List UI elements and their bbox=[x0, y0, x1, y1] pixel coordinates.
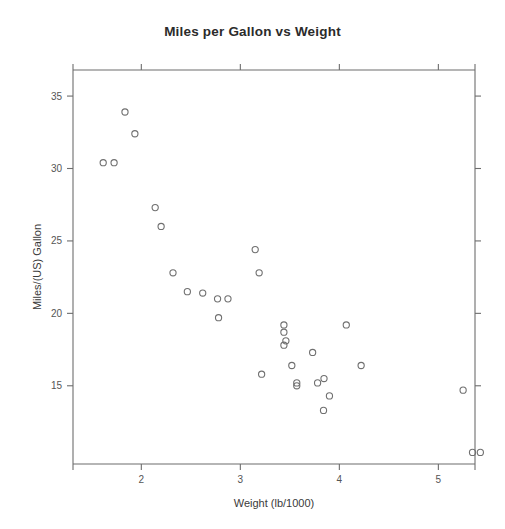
data-point bbox=[215, 315, 221, 321]
data-point bbox=[281, 329, 287, 335]
data-point bbox=[289, 362, 295, 368]
data-point bbox=[320, 407, 326, 413]
data-point bbox=[170, 270, 176, 276]
data-point bbox=[256, 270, 262, 276]
data-point bbox=[132, 131, 138, 137]
data-point bbox=[281, 322, 287, 328]
data-point bbox=[158, 223, 164, 229]
y-tick-label: 20 bbox=[51, 308, 63, 319]
scatter-plot-canvas: 2345 1520253035 Weight (lb/1000) Miles/(… bbox=[0, 0, 505, 529]
data-point bbox=[460, 387, 466, 393]
data-point bbox=[225, 296, 231, 302]
data-point bbox=[358, 362, 364, 368]
data-point bbox=[100, 160, 106, 166]
data-point bbox=[184, 289, 190, 295]
chart-figure: Miles per Gallon vs Weight 2345 15202530… bbox=[0, 0, 505, 529]
data-point bbox=[200, 290, 206, 296]
data-point bbox=[259, 371, 265, 377]
data-point bbox=[111, 160, 117, 166]
x-tick-label: 3 bbox=[238, 474, 244, 485]
y-axis-ticks: 1520253035 bbox=[51, 91, 481, 392]
x-tick-label: 2 bbox=[139, 474, 145, 485]
data-point bbox=[343, 322, 349, 328]
data-points bbox=[100, 109, 483, 456]
data-point bbox=[321, 375, 327, 381]
y-tick-label: 35 bbox=[51, 91, 63, 102]
y-tick-label: 25 bbox=[51, 235, 63, 246]
x-axis-ticks: 2345 bbox=[73, 64, 475, 485]
x-tick-label: 4 bbox=[337, 474, 343, 485]
y-tick-label: 30 bbox=[51, 163, 63, 174]
x-tick-label: 5 bbox=[436, 474, 442, 485]
plot-frame bbox=[73, 70, 475, 464]
data-point bbox=[310, 349, 316, 355]
data-point bbox=[252, 247, 258, 253]
data-point bbox=[326, 393, 332, 399]
x-axis-label: Weight (lb/1000) bbox=[234, 497, 315, 509]
y-tick-label: 15 bbox=[51, 380, 63, 391]
y-axis-label: Miles/(US) Gallon bbox=[31, 224, 43, 310]
data-point bbox=[152, 205, 158, 211]
data-point bbox=[314, 380, 320, 386]
data-point bbox=[477, 449, 483, 455]
data-point bbox=[122, 109, 128, 115]
data-point bbox=[214, 296, 220, 302]
